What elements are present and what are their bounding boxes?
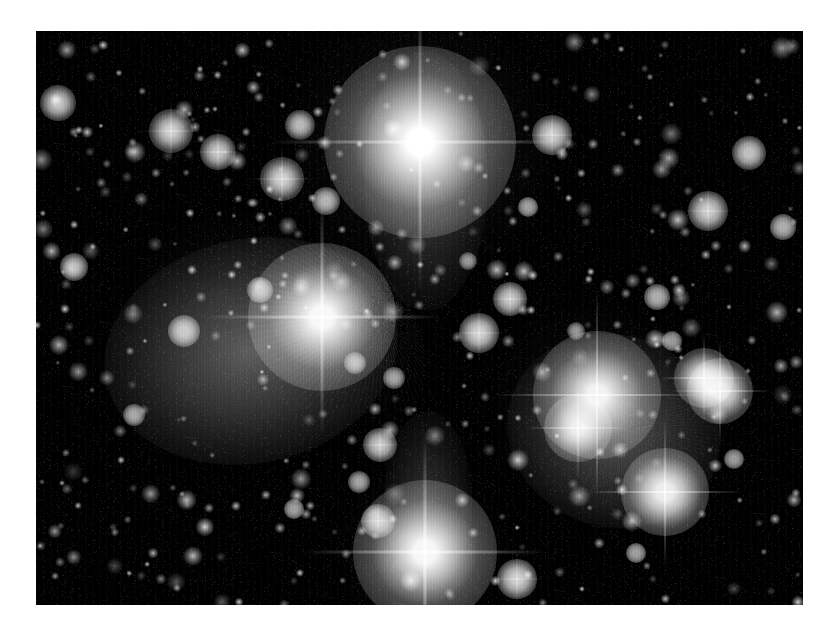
astronomical-plate-image [36, 31, 803, 605]
screenshot-root [0, 0, 838, 635]
film-grain-layer [36, 31, 803, 605]
